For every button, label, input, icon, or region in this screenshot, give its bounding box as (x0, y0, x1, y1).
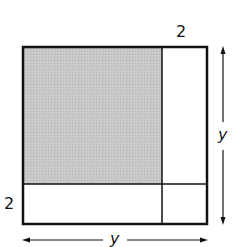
left-strip-label: 2 (4, 196, 14, 212)
bottom-side-label: y (110, 231, 119, 247)
square-diagram (0, 0, 239, 247)
right-side-label: y (218, 127, 227, 143)
top-strip-label: 2 (176, 24, 186, 40)
shaded-square (23, 47, 162, 184)
